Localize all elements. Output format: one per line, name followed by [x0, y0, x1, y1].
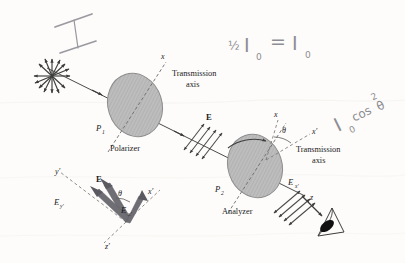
- analyzer-label-P2: P: [214, 184, 221, 194]
- polarizer-caption: Polarizer: [110, 144, 140, 153]
- inset-label-Ex: E: [120, 205, 127, 215]
- starburst-icon: [34, 59, 70, 93]
- polarization-figure: x P 1 Polarizer Transmission axis E x x′…: [0, 0, 405, 263]
- inset-label-Ey: E: [53, 197, 60, 207]
- transmission-axis-label-line1: Transmission: [172, 69, 217, 78]
- inset-label-xprime: x′: [147, 187, 154, 196]
- handwritten-eq-sub1: 0: [256, 52, 262, 62]
- polarizer-label-P1-subscript: 1: [102, 129, 105, 135]
- field-label-Exprime: E: [287, 177, 294, 187]
- axis-label-xprime-analyzer: x′: [311, 127, 318, 136]
- handwritten-eq-equals: =: [270, 30, 286, 52]
- transmission-axis2-label-line1: Transmission: [296, 145, 341, 154]
- analyzer-label-P2-subscript: 2: [221, 190, 224, 196]
- inset-label-Ex-subscript: x′: [127, 211, 132, 217]
- inset-label-zprime: z′: [104, 242, 110, 251]
- paper-background: [0, 0, 405, 263]
- inset-label-yprime: y′: [54, 167, 61, 176]
- polarizer-label-P1: P: [95, 123, 102, 133]
- theta-label-analyzer: θ: [282, 126, 286, 135]
- field-label-Exprime-subscript: x′: [294, 183, 299, 189]
- transmission-axis2-label-line2: axis: [312, 156, 325, 165]
- inset-label-theta: θ: [118, 189, 122, 198]
- handwritten-eq-I2: I: [292, 32, 298, 54]
- handwritten-eq-half: ½: [228, 39, 240, 53]
- field-label-E: E: [206, 112, 212, 122]
- inset-label-Ey-subscript: y′: [59, 203, 64, 209]
- inset-label-E: E: [96, 174, 102, 184]
- handwritten-eq-I1: I: [244, 34, 250, 56]
- transmission-axis-label-line2: axis: [186, 80, 199, 89]
- axis-label-x-polarizer: x: [160, 52, 165, 61]
- axis-label-x-analyzer: x: [273, 110, 278, 119]
- handwritten-eq-sub2: 0: [305, 50, 311, 60]
- analyzer-caption: Analyzer: [222, 207, 253, 216]
